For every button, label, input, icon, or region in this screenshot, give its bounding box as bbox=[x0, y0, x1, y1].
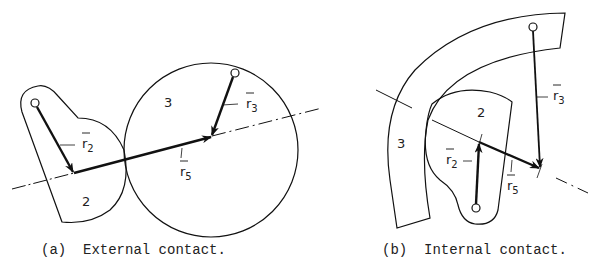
line-of-centers bbox=[12, 173, 74, 189]
vector-r2 bbox=[476, 144, 479, 204]
vector-r2 bbox=[37, 107, 73, 172]
label-r5: r5 bbox=[180, 164, 192, 182]
line-of-centers-extension bbox=[212, 108, 322, 136]
label-r3: r3 bbox=[246, 96, 258, 114]
pivot-2 bbox=[31, 99, 39, 107]
line-of-centers bbox=[376, 90, 412, 108]
figure-b-internal-contact: r2 r3 r5 2 3 (b) Internal contact. bbox=[376, 13, 588, 258]
link-3-label: 3 bbox=[397, 136, 405, 151]
line-of-centers-mid bbox=[432, 120, 479, 142]
pivot-3 bbox=[529, 23, 537, 31]
link-2-label: 2 bbox=[82, 194, 90, 209]
link-3-disk bbox=[124, 63, 298, 237]
pivot-2 bbox=[472, 204, 480, 212]
caption-a: (a) External contact. bbox=[41, 242, 226, 258]
link-2-body bbox=[425, 90, 512, 224]
label-r5: r5 bbox=[507, 178, 519, 196]
contact-diagram: r2 r3 r5 2 3 (a) External contact. r2 bbox=[0, 0, 601, 268]
vector-r5 bbox=[74, 137, 211, 173]
link-3-label: 3 bbox=[164, 95, 172, 110]
vector-r3 bbox=[212, 77, 233, 135]
figure-a-external-contact: r2 r3 r5 2 3 (a) External contact. bbox=[12, 63, 322, 258]
pivot-3 bbox=[231, 69, 239, 77]
line-of-centers-extension bbox=[556, 178, 588, 193]
vector-r5 bbox=[479, 142, 539, 168]
label-r2: r2 bbox=[82, 136, 94, 154]
caption-b: (b) Internal contact. bbox=[382, 242, 567, 258]
label-r3: r3 bbox=[553, 88, 565, 106]
link-2-label: 2 bbox=[477, 105, 485, 120]
label-r2: r2 bbox=[446, 152, 458, 170]
